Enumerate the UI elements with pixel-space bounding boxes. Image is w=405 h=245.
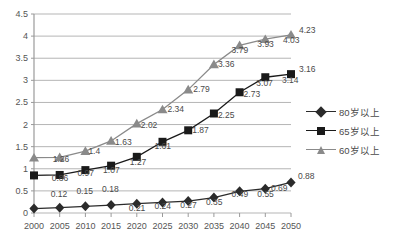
diamond-marker-icon [315, 106, 326, 117]
data-point-label: 3.16 [299, 65, 316, 74]
data-point-label: 4.23 [299, 26, 316, 35]
y-axis-tick-label: 4 [2, 31, 28, 41]
data-point-label: 1.63 [115, 138, 132, 147]
x-axis-tick-label: 2030 [174, 221, 202, 231]
data-point-label: 0.21 [129, 204, 146, 213]
x-axis-tick-label: 2035 [200, 221, 228, 231]
x-axis-tick-label: 2050 [277, 221, 305, 231]
x-axis-tick-label: 2040 [226, 221, 254, 231]
data-point-label: 3.79 [232, 46, 249, 55]
x-axis-tick-label: 2000 [20, 221, 48, 231]
triangle-marker-icon [317, 146, 325, 154]
line-chart: 00.511.522.533.544.5 2000200520102015202… [0, 0, 405, 245]
data-point-label: 0.69 [271, 184, 288, 193]
x-axis-tick-label: 2015 [97, 221, 125, 231]
legend-label: 60岁以上 [336, 143, 380, 157]
data-point-label: 2.02 [141, 121, 158, 130]
x-axis-tick-label: 2045 [251, 221, 279, 231]
data-point-marker [184, 126, 192, 134]
data-point-label: 3.14 [282, 76, 299, 85]
data-point-label: 0.86 [52, 174, 69, 183]
y-axis-tick-label: 0.5 [2, 186, 28, 196]
data-point-label: 2.79 [193, 85, 210, 94]
data-point-label: 3.93 [257, 40, 274, 49]
x-tick-marks [34, 213, 291, 217]
data-point-marker [210, 110, 218, 118]
data-point-label: 0.27 [180, 201, 197, 210]
data-point-marker [81, 201, 90, 211]
y-axis-tick-label: 3.5 [2, 53, 28, 63]
data-point-label: 0.97 [77, 169, 94, 178]
data-point-marker [236, 88, 244, 96]
data-point-marker [29, 204, 38, 214]
series-lines [34, 35, 291, 209]
x-axis-tick-label: 2020 [123, 221, 151, 231]
data-point-label: 1.4 [88, 147, 100, 156]
series-markers [29, 30, 296, 214]
x-axis-tick-label: 2005 [46, 221, 74, 231]
data-point-label: 1.61 [155, 142, 172, 151]
data-point-label: 2.73 [244, 90, 261, 99]
data-point-label: 1.87 [192, 126, 209, 135]
y-axis-tick-label: 0 [2, 208, 28, 218]
legend-symbol-square-icon [306, 125, 336, 137]
y-axis-tick-label: 1.5 [2, 142, 28, 152]
chart-legend: 80岁以上65岁以上60岁以上 [306, 102, 402, 159]
data-point-label: 0.35 [206, 198, 223, 207]
data-point-label: 1.07 [103, 166, 120, 175]
gridlines [34, 14, 291, 213]
data-point-label: 0.49 [232, 190, 249, 199]
data-point-label: 3.36 [218, 60, 235, 69]
data-point-label: 0.24 [155, 202, 172, 211]
y-axis-tick-label: 2.5 [2, 97, 28, 107]
data-point-label: 0.12 [51, 190, 68, 199]
data-point-label: 3.07 [256, 79, 273, 88]
legend-item-2[interactable]: 60岁以上 [306, 140, 402, 159]
data-point-label: 0.18 [102, 185, 119, 194]
data-point-label: 1.26 [53, 155, 70, 164]
data-point-label: 0.88 [298, 172, 315, 181]
axis-lines [31, 14, 34, 213]
y-axis-tick-label: 4.5 [2, 9, 28, 19]
legend-symbol-diamond-icon [306, 106, 336, 118]
legend-item-1[interactable]: 65岁以上 [306, 121, 402, 140]
x-axis-tick-label: 2010 [71, 221, 99, 231]
y-axis-tick-label: 3 [2, 75, 28, 85]
legend-label: 80岁以上 [336, 105, 380, 119]
data-point-marker [55, 203, 64, 213]
data-point-marker [30, 171, 38, 179]
y-axis-tick-label: 2 [2, 120, 28, 130]
legend-symbol-triangle-icon [306, 144, 336, 156]
data-point-marker [107, 200, 116, 210]
data-point-label: 0.15 [76, 187, 93, 196]
square-marker-icon [317, 127, 325, 135]
legend-item-0[interactable]: 80岁以上 [306, 102, 402, 121]
data-point-label: 2.25 [218, 111, 235, 120]
data-point-label: 4.03 [283, 36, 300, 45]
legend-label: 65岁以上 [336, 124, 380, 138]
data-point-label: 2.34 [168, 105, 185, 114]
x-axis-tick-label: 2025 [149, 221, 177, 231]
y-axis-tick-label: 1 [2, 164, 28, 174]
data-point-label: 1.27 [130, 158, 147, 167]
